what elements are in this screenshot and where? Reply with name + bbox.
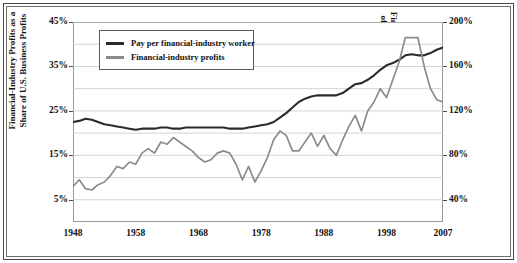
x-tick-1978: 1978: [239, 228, 283, 238]
tick-mark: [69, 22, 73, 23]
y-axis-left-title: Financial-Industry Profits as a Share of…: [7, 11, 28, 131]
y-right-tick-200: 200%: [449, 16, 491, 26]
y-right-tick-160: 160%: [449, 60, 491, 70]
tick-mark: [443, 66, 447, 67]
tick-mark: [443, 155, 447, 156]
y-left-tick-5: 5%: [31, 194, 68, 204]
legend-swatch-pay: [106, 42, 124, 45]
y-left-tick-25: 25%: [31, 105, 68, 115]
legend-label-profits: Financial-industry profits: [131, 52, 225, 62]
x-tick-1988: 1988: [302, 228, 346, 238]
tick-mark: [443, 200, 447, 201]
y-left-tick-45: 45%: [31, 16, 68, 26]
tick-mark: [69, 66, 73, 67]
tick-mark: [69, 111, 73, 112]
legend-item-pay: Pay per financial-industry worker: [106, 36, 246, 50]
plot-wrapper: Pay per financial-industry worker Financ…: [73, 22, 443, 222]
y-right-tick-80: 80%: [449, 149, 491, 159]
x-tick-1968: 1968: [176, 228, 220, 238]
x-tick-1998: 1998: [365, 228, 409, 238]
y-right-tick-120: 120%: [449, 105, 491, 115]
tick-mark: [69, 155, 73, 156]
legend-label-pay: Pay per financial-industry worker: [131, 38, 255, 48]
y-left-tick-35: 35%: [31, 60, 68, 70]
x-tick-1948: 1948: [51, 228, 95, 238]
chart-legend: Pay per financial-industry worker Financ…: [99, 30, 254, 70]
y-left-tick-15: 15%: [31, 149, 68, 159]
x-tick-2007: 2007: [421, 228, 465, 238]
tick-mark: [443, 22, 447, 23]
tick-mark: [69, 200, 73, 201]
y-right-tick-40: 40%: [449, 194, 491, 204]
tick-mark: [443, 111, 447, 112]
legend-item-profits: Financial-industry profits: [106, 50, 246, 64]
chart-figure: Financial-Industry Profits as a Share of…: [0, 0, 517, 263]
legend-swatch-profits: [106, 56, 124, 59]
x-tick-1958: 1958: [114, 228, 158, 238]
